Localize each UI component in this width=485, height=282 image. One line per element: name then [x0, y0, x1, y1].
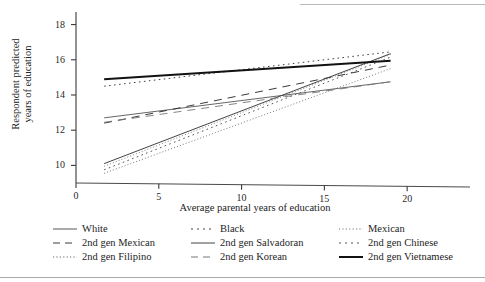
legend-label: Mexican — [368, 224, 405, 235]
legend-item-mexican[interactable]: Mexican — [338, 222, 472, 236]
x-tick-label-5: 5 — [147, 192, 171, 202]
legend-item-2nd-gen-korean[interactable]: 2nd gen Korean — [190, 250, 338, 264]
legend-swatch-icon — [52, 237, 78, 249]
y-axis-title-line-2: years of education — [22, 19, 34, 149]
legend-label: 2nd gen Korean — [220, 252, 287, 263]
series-line-2nd-gen-korean — [104, 82, 390, 122]
legend-item-white[interactable]: White — [52, 222, 190, 236]
chart-legend: WhiteBlackMexican2nd gen Mexican2nd gen … — [52, 222, 472, 264]
legend-row: WhiteBlackMexican — [52, 222, 472, 236]
legend-row: 2nd gen Filipino2nd gen Korean2nd gen Vi… — [52, 250, 472, 264]
legend-item-2nd-gen-chinese[interactable]: 2nd gen Chinese — [338, 236, 472, 250]
series-line-white — [104, 82, 390, 118]
legend-swatch-icon — [338, 251, 364, 263]
legend-item-2nd-gen-salvadoran[interactable]: 2nd gen Salvadoran — [190, 236, 338, 250]
legend-swatch-icon — [338, 223, 364, 235]
series-line-2nd-gen-filipino — [104, 69, 390, 174]
legend-label: White — [82, 224, 108, 235]
figure-chart: Respondent predicted years of education … — [0, 0, 485, 282]
y-tick-label-10: 10 — [43, 160, 65, 170]
y-axis-title-line-1: Respondent predicted — [10, 19, 22, 149]
legend-swatch-icon — [190, 223, 216, 235]
legend-label: 2nd gen Salvadoran — [220, 238, 303, 249]
x-axis-title: Average parental years of education — [120, 202, 390, 213]
legend-item-black[interactable]: Black — [190, 222, 338, 236]
legend-swatch-icon — [338, 237, 364, 249]
series-line-mexican — [104, 54, 390, 166]
y-tick-label-16: 16 — [43, 55, 65, 65]
y-tick-label-14: 14 — [43, 90, 65, 100]
legend-label: 2nd gen Mexican — [82, 238, 155, 249]
legend-swatch-icon — [52, 251, 78, 263]
x-tick-label-15: 15 — [312, 194, 336, 204]
legend-label: 2nd gen Chinese — [368, 238, 438, 249]
legend-row: 2nd gen Mexican2nd gen Salvadoran2nd gen… — [52, 236, 472, 250]
y-tick-label-12: 12 — [43, 125, 65, 135]
y-tick-label-18: 18 — [43, 20, 65, 30]
series-line-2nd-gen-chinese — [104, 57, 390, 170]
legend-label: Black — [220, 224, 245, 235]
legend-item-2nd-gen-filipino[interactable]: 2nd gen Filipino — [52, 250, 190, 264]
x-tick-label-10: 10 — [230, 193, 254, 203]
x-axis-line — [76, 183, 470, 187]
legend-swatch-icon — [190, 237, 216, 249]
legend-swatch-icon — [190, 251, 216, 263]
x-tick-label-20: 20 — [395, 194, 419, 204]
legend-item-2nd-gen-vietnamese[interactable]: 2nd gen Vietnamese — [338, 250, 472, 264]
legend-item-2nd-gen-mexican[interactable]: 2nd gen Mexican — [52, 236, 190, 250]
legend-label: 2nd gen Vietnamese — [368, 252, 453, 263]
x-tick-label-0: 0 — [64, 191, 88, 201]
series-line-2nd-gen-mexican — [104, 65, 390, 123]
legend-swatch-icon — [52, 223, 78, 235]
legend-label: 2nd gen Filipino — [82, 252, 151, 263]
y-axis-title: Respondent predicted years of education — [10, 19, 34, 149]
